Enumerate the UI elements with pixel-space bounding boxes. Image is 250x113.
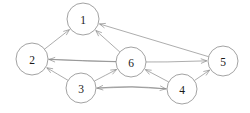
graph-edge-4-to-5 bbox=[194, 70, 209, 80]
nodes-layer: 123456 bbox=[16, 3, 238, 104]
edge-line bbox=[94, 69, 116, 81]
directed-graph-figure: 123456 bbox=[0, 0, 250, 113]
graph-edge-3-to-2 bbox=[47, 68, 68, 81]
arrow-head-icon bbox=[145, 70, 151, 75]
node-label: 4 bbox=[179, 84, 185, 96]
edge-line bbox=[96, 30, 120, 52]
edge-line bbox=[45, 30, 70, 50]
node-label: 2 bbox=[29, 54, 35, 66]
graph-edge-6-to-1 bbox=[96, 30, 120, 52]
edge-line bbox=[97, 87, 167, 89]
graph-node-1[interactable]: 1 bbox=[67, 3, 99, 35]
node-label: 1 bbox=[80, 14, 86, 26]
node-label: 6 bbox=[128, 57, 134, 69]
graph-edge-4-to-6 bbox=[145, 70, 168, 82]
arrow-head-icon bbox=[47, 68, 53, 73]
graph-edge-4-to-3 bbox=[97, 86, 167, 90]
graph-edge-5-to-1 bbox=[99, 23, 208, 56]
edge-line bbox=[47, 68, 68, 81]
node-label: 3 bbox=[78, 83, 84, 95]
edge-line bbox=[99, 24, 208, 57]
edge-line bbox=[145, 70, 168, 82]
graph-node-2[interactable]: 2 bbox=[16, 43, 48, 75]
graph-node-3[interactable]: 3 bbox=[66, 73, 96, 103]
graph-edge-2-to-1 bbox=[45, 30, 70, 50]
graph-node-4[interactable]: 4 bbox=[167, 74, 197, 104]
edge-line bbox=[194, 70, 209, 80]
node-label: 5 bbox=[220, 56, 226, 68]
arrow-head-icon bbox=[204, 70, 210, 75]
graph-node-5[interactable]: 5 bbox=[208, 46, 238, 76]
graph-node-6[interactable]: 6 bbox=[116, 47, 146, 77]
graph-edge-3-to-6 bbox=[94, 69, 116, 81]
graph-canvas: 123456 bbox=[0, 0, 250, 113]
